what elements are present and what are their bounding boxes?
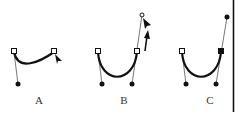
anchor-point — [12, 49, 17, 54]
panel-c: C — [180, 15, 230, 107]
handle-point — [100, 82, 105, 87]
handle-point — [16, 82, 21, 87]
panel-label: B — [120, 94, 127, 106]
handle-point — [130, 82, 135, 87]
handle-point — [184, 82, 189, 87]
handle-point — [214, 82, 219, 87]
anchor-point — [52, 49, 57, 54]
bezier-diagram: A B C — [0, 0, 243, 119]
panel-label: A — [35, 94, 43, 106]
anchor-point-selected — [219, 49, 224, 54]
cursor-arrow-icon — [55, 54, 62, 64]
anchor-point — [180, 49, 185, 54]
panel-b: B — [96, 13, 152, 106]
curve — [98, 52, 137, 77]
curve — [182, 52, 221, 77]
anchor-point — [135, 49, 140, 54]
direction-arrowhead-icon — [144, 30, 150, 39]
panel-label: C — [206, 94, 213, 106]
handle-point — [225, 15, 230, 20]
panel-a: A — [12, 49, 63, 107]
cursor-arrow-icon — [143, 18, 151, 29]
handle-point — [140, 13, 144, 17]
curve — [14, 52, 54, 64]
anchor-point — [96, 49, 101, 54]
